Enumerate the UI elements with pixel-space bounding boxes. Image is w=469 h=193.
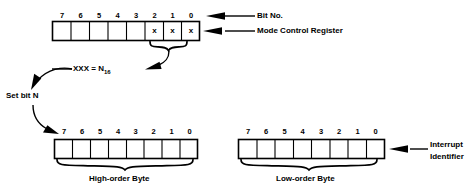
setbit-to-bit7-arrow (33, 105, 59, 134)
low-byte-bit-number-1: 1 (352, 128, 364, 136)
mcr-bit-number-1: 1 (167, 12, 179, 20)
high-byte-bit-number-1: 1 (166, 128, 178, 136)
low-byte-bit-number-5: 5 (279, 128, 291, 136)
diagram-vector-layer (0, 0, 469, 193)
bit-no-callout-arrow (206, 12, 255, 20)
register-layout-diagram: 7 6 5 4 3 2 1 0 x x x Bit No. Mode Contr… (0, 0, 469, 193)
high-order-byte-box (55, 140, 198, 159)
high-byte-bit-number-5: 5 (94, 128, 106, 136)
mcr-cell-bit-2[interactable]: x (149, 27, 161, 35)
low-order-byte-caption: Low-order Byte (276, 175, 335, 183)
mcr-bit-number-3: 3 (130, 12, 142, 20)
mode-control-register-callout-arrow (203, 27, 255, 35)
high-byte-bit-number-6: 6 (76, 128, 88, 136)
high-byte-bit-number-2: 2 (148, 128, 160, 136)
mcr-bit-number-4: 4 (112, 12, 124, 20)
low-byte-bit-number-2: 2 (333, 128, 345, 136)
mcr-cell-bit-0[interactable]: x (185, 27, 197, 35)
mcr-cell-bit-1[interactable]: x (167, 27, 179, 35)
bit-no-label: Bit No. (257, 12, 283, 20)
mcr-bit-number-5: 5 (93, 12, 105, 20)
low-byte-bit-number-3: 3 (315, 128, 327, 136)
mcr-bit-number-7: 7 (56, 12, 68, 20)
low-byte-bit-number-7: 7 (242, 128, 254, 136)
marked-bits-brace (150, 42, 199, 51)
mode-control-register-label: Mode Control Register (257, 27, 343, 35)
interrupt-identifier-label-line1: Interrupt (430, 141, 463, 149)
high-byte-bit-number-3: 3 (130, 128, 142, 136)
high-byte-bit-number-0: 0 (184, 128, 196, 136)
set-bit-label: Set bit N (6, 92, 38, 100)
low-order-byte-box (239, 140, 385, 159)
low-byte-bit-number-4: 4 (297, 128, 309, 136)
high-byte-bit-number-7: 7 (58, 128, 70, 136)
mcr-bit-number-6: 6 (75, 12, 87, 20)
hex-to-setbit-arrow (31, 68, 72, 90)
hex-value-label: XXX = N16 (73, 65, 111, 75)
hex-value-prefix: XXX = N (73, 64, 104, 73)
interrupt-identifier-callout-arrow (389, 145, 428, 153)
low-order-byte-brace (241, 160, 377, 171)
hex-value-subscript: 16 (104, 69, 111, 75)
brace-to-hex-arrow (145, 51, 169, 70)
mcr-bit-number-0: 0 (185, 12, 197, 20)
high-order-byte-caption: High-order Byte (89, 175, 149, 183)
high-byte-bit-number-4: 4 (112, 128, 124, 136)
mcr-bit-number-2: 2 (149, 12, 161, 20)
interrupt-identifier-label-line2: Identifier (430, 153, 464, 161)
high-order-byte-brace (57, 160, 193, 171)
low-byte-bit-number-6: 6 (260, 128, 272, 136)
low-byte-bit-number-0: 0 (370, 128, 382, 136)
